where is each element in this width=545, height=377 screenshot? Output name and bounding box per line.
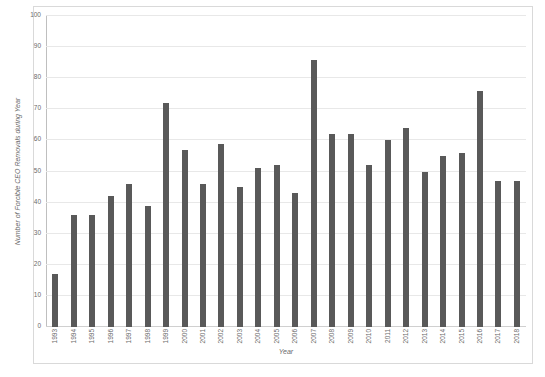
x-tick-label-1993: 1993 (52, 329, 59, 343)
bar-2005[interactable] (274, 165, 280, 327)
x-tick-label-2007: 2007 (311, 329, 318, 343)
bar-1995[interactable] (89, 215, 95, 327)
bar-1993[interactable] (52, 274, 58, 327)
bar-slot (415, 16, 433, 327)
bar-slot (323, 16, 341, 327)
bar-2013[interactable] (422, 172, 428, 328)
y-tick-label: 90 (34, 43, 41, 50)
bar-2007[interactable] (311, 60, 317, 327)
bar-slot (360, 16, 378, 327)
x-tick-slot: 2004 (249, 329, 267, 361)
y-tick-label: 50 (34, 167, 41, 174)
bar-slot (342, 16, 360, 327)
x-tick-slot: 2005 (268, 329, 286, 361)
bar-slot (212, 16, 230, 327)
x-axis-tick-labels: 1993199419951996199719981999200020012002… (46, 329, 526, 361)
bar-slot (286, 16, 304, 327)
bar-2003[interactable] (237, 187, 243, 327)
bar-2012[interactable] (403, 128, 409, 327)
x-tick-label-2002: 2002 (218, 329, 225, 343)
bar-slot (397, 16, 415, 327)
x-tick-label-2011: 2011 (384, 329, 391, 343)
x-tick-slot: 2007 (305, 329, 323, 361)
bar-2011[interactable] (385, 140, 391, 327)
x-tick-slot: 2002 (212, 329, 230, 361)
y-tick-label: 70 (34, 105, 41, 112)
x-tick-label-2010: 2010 (366, 329, 373, 343)
x-tick-label-2016: 2016 (477, 329, 484, 343)
bar-2006[interactable] (292, 193, 298, 327)
bar-2009[interactable] (348, 134, 354, 327)
x-tick-slot: 2011 (378, 329, 396, 361)
y-axis-title: Number of Forcible CEO Removals during Y… (14, 16, 26, 327)
bar-chart: 0102030405060708090100 19931994199519961… (0, 0, 545, 377)
bar-slot (64, 16, 82, 327)
bar-1994[interactable] (71, 215, 77, 327)
x-tick-slot: 1993 (46, 329, 64, 361)
plot-area: 0102030405060708090100 (46, 16, 526, 327)
x-tick-slot: 2017 (489, 329, 507, 361)
y-tick-label: 40 (34, 198, 41, 205)
x-tick-slot: 2012 (397, 329, 415, 361)
bar-slot (452, 16, 470, 327)
bar-slot (305, 16, 323, 327)
x-tick-label-2015: 2015 (458, 329, 465, 343)
x-tick-label-1997: 1997 (126, 329, 133, 343)
bar-1999[interactable] (163, 103, 169, 327)
x-tick-label-2008: 2008 (329, 329, 336, 343)
x-tick-label-2003: 2003 (237, 329, 244, 343)
bar-2008[interactable] (329, 134, 335, 327)
bar-slot (157, 16, 175, 327)
x-tick-label-2005: 2005 (274, 329, 281, 343)
bar-slot (268, 16, 286, 327)
y-tick-label: 10 (34, 292, 41, 299)
y-tick-label: 80 (34, 74, 41, 81)
bar-slot (101, 16, 119, 327)
bar-2000[interactable] (182, 150, 188, 327)
x-tick-label-2013: 2013 (421, 329, 428, 343)
x-tick-slot: 2014 (434, 329, 452, 361)
x-tick-slot: 1999 (157, 329, 175, 361)
bar-2016[interactable] (477, 91, 483, 327)
bar-2015[interactable] (459, 153, 465, 327)
bar-slot (434, 16, 452, 327)
x-tick-slot: 1996 (101, 329, 119, 361)
x-tick-slot: 2000 (175, 329, 193, 361)
bar-2014[interactable] (440, 156, 446, 327)
bar-slot (175, 16, 193, 327)
x-tick-label-2004: 2004 (255, 329, 262, 343)
y-tick-label: 0 (37, 323, 41, 330)
x-tick-label-1999: 1999 (163, 329, 170, 343)
bar-1996[interactable] (108, 196, 114, 327)
x-tick-label-1994: 1994 (70, 329, 77, 343)
x-tick-label-1996: 1996 (107, 329, 114, 343)
x-tick-label-2014: 2014 (440, 329, 447, 343)
bar-slot (138, 16, 156, 327)
x-axis-title: Year (46, 348, 526, 355)
bar-2017[interactable] (495, 181, 501, 327)
bar-2018[interactable] (514, 181, 520, 327)
bar-1998[interactable] (145, 206, 151, 327)
x-tick-label-2000: 2000 (181, 329, 188, 343)
x-tick-label-2001: 2001 (200, 329, 207, 343)
bar-1997[interactable] (126, 184, 132, 327)
x-tick-label-2012: 2012 (403, 329, 410, 343)
bar-slot (46, 16, 64, 327)
bar-2002[interactable] (218, 144, 224, 327)
bar-2004[interactable] (255, 168, 261, 327)
y-tick-label: 30 (34, 229, 41, 236)
bar-slot (378, 16, 396, 327)
bar-slot (249, 16, 267, 327)
x-tick-slot: 1994 (64, 329, 82, 361)
x-tick-slot: 1995 (83, 329, 101, 361)
y-tick-label: 100 (30, 12, 41, 19)
x-tick-slot: 2010 (360, 329, 378, 361)
x-tick-slot: 1997 (120, 329, 138, 361)
x-tick-slot: 2008 (323, 329, 341, 361)
x-tick-label-2018: 2018 (514, 329, 521, 343)
x-tick-slot: 2016 (471, 329, 489, 361)
bar-2010[interactable] (366, 165, 372, 327)
x-tick-label-2017: 2017 (495, 329, 502, 343)
bar-2001[interactable] (200, 184, 206, 327)
x-tick-slot: 2009 (342, 329, 360, 361)
